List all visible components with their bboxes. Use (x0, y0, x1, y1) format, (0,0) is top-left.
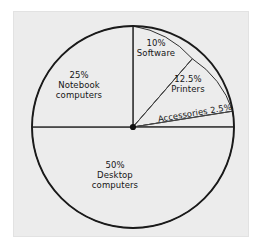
slice-label-desktop-computers: 50% Desktop computers (74, 160, 156, 191)
slice-label-printers-category: Printers (156, 84, 220, 94)
slice-label-desktop-category: Desktop (74, 170, 156, 180)
slice-label-printers-percent: 12.5% (156, 74, 220, 84)
pie-center-hub (130, 124, 136, 130)
slice-label-printers: 12.5% Printers (156, 74, 220, 94)
slice-label-desktop-percent: 50% (74, 160, 156, 170)
pie-chart-figure: 10% Software 12.5% Printers Accessories … (0, 0, 264, 250)
slice-label-software: 10% Software (124, 38, 188, 58)
slice-label-notebook-percent: 25% (38, 70, 120, 80)
slice-label-notebook-computers: 25% Notebook computers (38, 70, 120, 101)
slice-label-software-category: Software (124, 48, 188, 58)
slice-label-notebook-category-line2: computers (38, 90, 120, 100)
slice-label-software-percent: 10% (124, 38, 188, 48)
slice-label-desktop-category-line2: computers (74, 180, 156, 190)
slice-label-notebook-category: Notebook (38, 80, 120, 90)
